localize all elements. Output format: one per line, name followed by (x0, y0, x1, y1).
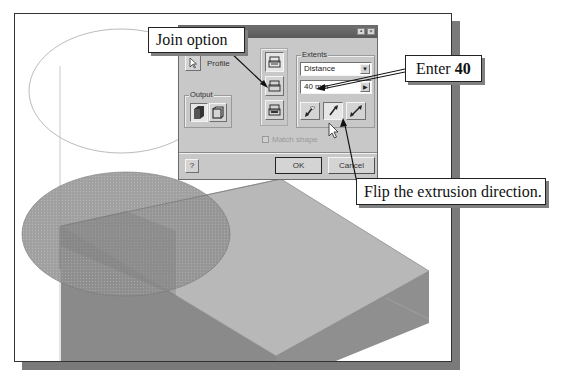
distance-input[interactable]: 40 mm ▶ (300, 80, 372, 94)
operation-group (260, 48, 288, 126)
callout-flip-direction: Flip the extrusion direction. (356, 178, 546, 205)
extents-group-label: Extents (301, 50, 328, 59)
symmetric-button[interactable] (346, 102, 366, 120)
cursor-arrow-icon (186, 56, 200, 70)
direction-arrow-icon (301, 103, 319, 119)
direction-2-button[interactable] (323, 102, 343, 120)
join-button[interactable] (265, 52, 284, 72)
help-icon: ? (190, 161, 194, 170)
extents-type-dropdown[interactable]: Distance ▼ (300, 62, 372, 76)
cut-icon (266, 77, 283, 95)
callout-enter-text: Enter (416, 60, 455, 77)
chevron-down-icon[interactable]: ▼ (360, 64, 370, 74)
intersect-icon (266, 101, 283, 119)
surface-cube-icon (210, 104, 226, 121)
direction-1-button[interactable] (300, 102, 320, 120)
match-shape-checkbox[interactable] (262, 136, 269, 143)
extents-type-value: Distance (304, 64, 335, 73)
distance-value: 40 mm (304, 82, 328, 91)
pin-button[interactable]: ▪ (357, 28, 365, 35)
symmetric-arrow-icon (347, 103, 365, 119)
match-shape-label: Match shape (272, 135, 318, 144)
output-surface-button[interactable] (209, 103, 227, 122)
profile-select-button[interactable] (185, 55, 201, 71)
callout-flip-direction-text: Flip the extrusion direction. (364, 183, 542, 200)
dialog-separator (179, 152, 377, 154)
flip-direction-icon (324, 103, 342, 119)
profile-label: Profile (207, 59, 230, 68)
solid-cube-icon (191, 104, 207, 121)
help-button[interactable]: ? (185, 159, 199, 173)
callout-join-option: Join option (148, 27, 245, 53)
output-solid-button[interactable] (190, 103, 208, 122)
cut-button[interactable] (265, 76, 284, 96)
ok-button[interactable]: OK (275, 157, 322, 174)
cancel-button[interactable]: Cancel (328, 157, 375, 174)
callout-enter-value: 40 (455, 60, 471, 77)
output-group: Output (184, 95, 232, 128)
chevron-right-icon[interactable]: ▶ (360, 82, 370, 92)
extents-group: Extents Distance ▼ 40 mm ▶ (296, 55, 375, 128)
intersect-button[interactable] (265, 100, 284, 120)
callout-enter-40: Enter 40 (405, 55, 482, 82)
callout-join-option-text: Join option (156, 31, 228, 48)
mouse-cursor-icon (327, 122, 341, 140)
output-group-label: Output (189, 90, 214, 99)
close-button[interactable]: × (367, 28, 375, 35)
join-icon (266, 53, 283, 71)
